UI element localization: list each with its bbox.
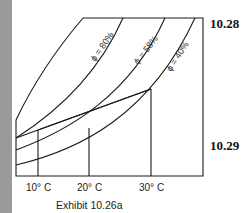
curve-label-58: ϕ = 58% (132, 34, 160, 66)
exhibit-caption: Exhibit 10.26a (56, 199, 123, 211)
curve-label-80: ϕ = 80% (88, 30, 115, 63)
reference-number-top: 10.28 (210, 16, 239, 32)
curve-saturation (16, 18, 83, 120)
reference-number-bottom: 10.29 (210, 138, 239, 154)
x-tick-10c: 10° C (26, 182, 51, 193)
x-tick-30c: 30° C (139, 182, 164, 193)
curve-label-40: ϕ = 40% (164, 40, 191, 73)
x-tick-20c: 20° C (77, 182, 102, 193)
